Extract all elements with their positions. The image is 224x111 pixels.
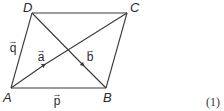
vector-label-b: → b xyxy=(85,47,95,63)
vertex-label-d: D xyxy=(23,1,32,14)
equation-number: (1) xyxy=(206,96,220,108)
vector-label-p: → p xyxy=(52,91,62,107)
vector-label-q: → q xyxy=(8,38,18,54)
vertex-label-b: B xyxy=(103,91,112,104)
parallelogram-drawing xyxy=(0,0,224,111)
parallelogram-figure: A B C D → q → a → b → p (1) xyxy=(0,0,224,111)
vertex-label-c: C xyxy=(130,1,139,14)
vector-label-a: → a xyxy=(36,47,46,63)
vertex-label-a: A xyxy=(3,91,12,104)
